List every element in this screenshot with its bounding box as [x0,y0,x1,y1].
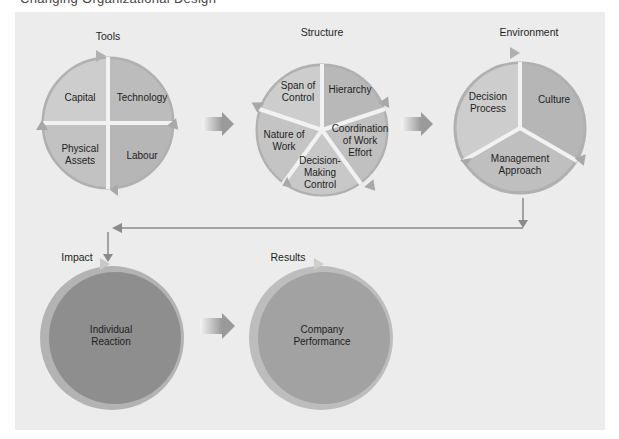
structure-title: Structure [301,26,344,38]
cycle-arrowhead-icon [510,47,520,59]
tools-cycle [36,50,182,196]
flow-arrow-structure-to-environment [401,112,433,136]
diagram-graphics [0,0,619,439]
flow-arrow-impact-to-results [200,313,235,339]
impact-title: Impact [61,251,93,263]
results-label: Company Performance [293,324,350,348]
tools-title: Tools [96,30,121,42]
environment-decision-process-label: Decision Process [469,91,507,115]
structure-hierarchy-label: Hierarchy [329,84,372,96]
impact-label: Individual Reaction [90,324,132,348]
structure-span-label: Span of Control [281,80,315,104]
structure-coordination-label: Coordination of Work Effort [332,123,389,159]
tools-labour-label: Labour [126,150,157,162]
tools-technology-label: Technology [117,92,168,104]
environment-title: Environment [500,26,559,38]
structure-nature-label: Nature of Work [263,129,304,153]
connector-environment-to-impact [103,198,528,262]
cycle-arrowhead-icon [364,179,380,194]
environment-management-label: Management Approach [491,153,549,177]
segment-capital [44,59,108,123]
results-title: Results [270,251,305,263]
segment-technology [108,59,172,123]
environment-culture-label: Culture [538,94,570,106]
flow-arrow-tools-to-structure [202,112,234,136]
tools-capital-label: Capital [64,92,95,104]
tools-physical-assets-label: Physical Assets [61,143,98,167]
structure-decision-making-label: Decision- Making Control [299,155,341,191]
